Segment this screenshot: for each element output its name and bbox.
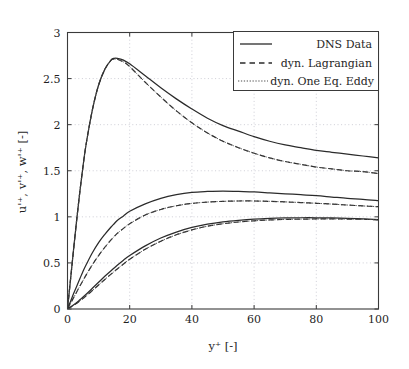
y-tick-label: 1 (54, 211, 61, 224)
y-tick-label: 2 (54, 119, 61, 132)
y-tick-label: 1.5 (43, 165, 61, 178)
x-tick-label: 0 (64, 313, 71, 326)
x-tick-label: 20 (123, 313, 137, 326)
chart-canvas: 020406080100 00.511.522.53 y⁺ [-] u'⁺, v… (0, 0, 409, 369)
y-tick-label: 0.5 (43, 257, 61, 270)
y-tick-label: 3 (54, 27, 61, 40)
x-tick-label: 100 (368, 313, 389, 326)
legend-label-dyn-lagrangian: dyn. Lagrangian (281, 57, 372, 70)
chart-legend: DNS Data dyn. Lagrangian dyn. One Eq. Ed… (234, 32, 379, 91)
x-tick-label: 60 (247, 313, 261, 326)
x-axis-label: y⁺ [-] (207, 339, 237, 353)
y-axis-label: u'⁺, v'⁺, w'⁺ [-] (15, 131, 29, 214)
legend-label-dns-data: DNS Data (316, 38, 372, 51)
y-tick-label: 2.5 (43, 73, 61, 86)
legend-label-dyn-one-eq-eddy: dyn. One Eq. Eddy (270, 75, 375, 88)
x-tick-label: 80 (309, 313, 323, 326)
turbulence-rms-velocity-chart: 020406080100 00.511.522.53 y⁺ [-] u'⁺, v… (0, 0, 409, 369)
x-tick-label: 40 (185, 313, 199, 326)
y-tick-label: 0 (54, 303, 61, 316)
